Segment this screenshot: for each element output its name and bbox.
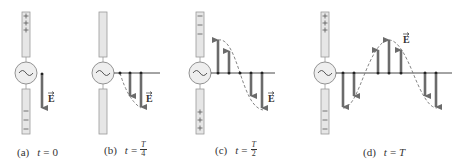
caption-a: (a) t = 0 [17, 146, 58, 158]
e-field-label: E [146, 93, 153, 104]
antenna-top [99, 12, 107, 57]
equals-sign: = [43, 146, 49, 158]
time-fraction: T 4 [140, 141, 146, 158]
caption-d: (d) t = T [363, 146, 405, 158]
e-field-label: E [48, 93, 55, 104]
equals-sign: = [241, 144, 247, 156]
fraction-denominator: 4 [141, 150, 145, 158]
time-variable: t [37, 146, 40, 158]
fraction-denominator: 2 [252, 150, 256, 158]
panel-label: (d) [363, 146, 376, 158]
plus-charges [323, 14, 328, 33]
equals-sign: = [390, 146, 396, 158]
panel-label: (c) [215, 144, 227, 156]
time-variable: t [125, 144, 128, 156]
time-variable: t [384, 146, 387, 158]
panel-b: E [92, 12, 160, 134]
panel-d: E [314, 12, 452, 134]
antenna-top [321, 12, 329, 57]
antenna-bottom [99, 89, 107, 134]
panel-label: (a) [17, 146, 29, 158]
e-field-label: E [403, 34, 410, 45]
antenna-bottom [321, 89, 329, 134]
time-value: 0 [53, 146, 59, 158]
antenna-top [196, 12, 204, 57]
time-variable: t [235, 144, 238, 156]
e-field-label: E [268, 93, 275, 104]
panel-label: (b) [104, 144, 117, 156]
caption-c: (c) t = T 2 [215, 141, 257, 158]
panel-c: E [189, 12, 275, 134]
plus-charges [24, 14, 29, 33]
wave-curve [218, 40, 263, 110]
equals-sign: = [131, 144, 137, 156]
time-value: T [399, 146, 405, 158]
caption-b: (b) t = T 4 [104, 141, 147, 158]
antenna-top [22, 12, 30, 57]
time-fraction: T 2 [251, 141, 257, 158]
panel-a: E [15, 12, 55, 134]
antenna-bottom [22, 89, 30, 134]
